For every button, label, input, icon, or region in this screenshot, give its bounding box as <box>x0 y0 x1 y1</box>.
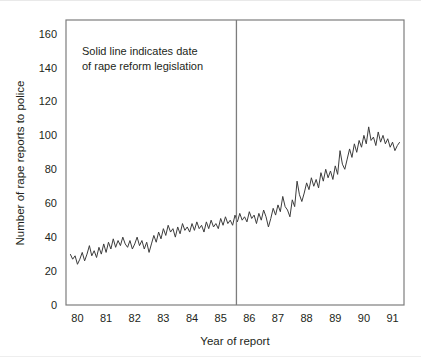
y-axis-tick-labels: 020406080100120140160 <box>39 28 57 311</box>
x-tick-label: 86 <box>243 312 255 324</box>
y-tick-label: 80 <box>45 163 57 175</box>
x-tick-label: 82 <box>129 312 141 324</box>
y-tick-label: 100 <box>39 129 57 141</box>
x-tick-label: 87 <box>272 312 284 324</box>
annotation-line-2: of rape reform legislation <box>82 60 203 72</box>
y-tick-label: 140 <box>39 62 57 74</box>
x-tick-label: 80 <box>71 312 83 324</box>
x-tick-label: 91 <box>386 312 398 324</box>
x-tick-label: 89 <box>329 312 341 324</box>
x-axis-title: Year of report <box>200 335 270 347</box>
y-tick-label: 120 <box>39 95 57 107</box>
line-chart: 020406080100120140160 808182838485868788… <box>0 0 421 363</box>
y-tick-label: 60 <box>45 197 57 209</box>
y-tick-label: 0 <box>51 299 57 311</box>
figure-container: 020406080100120140160 808182838485868788… <box>0 0 421 363</box>
y-tick-label: 40 <box>45 231 57 243</box>
x-axis-tick-labels: 808182838485868788899091 <box>71 312 398 324</box>
x-tick-label: 85 <box>215 312 227 324</box>
y-tick-label: 20 <box>45 265 57 277</box>
x-tick-label: 84 <box>186 312 198 324</box>
y-tick-label: 160 <box>39 28 57 40</box>
x-tick-label: 81 <box>100 312 112 324</box>
y-axis-title: Number of rape reports to police <box>14 81 26 246</box>
x-tick-label: 90 <box>358 312 370 324</box>
x-tick-label: 83 <box>157 312 169 324</box>
x-tick-label: 88 <box>300 312 312 324</box>
annotation-line-1: Solid line indicates date <box>82 45 198 57</box>
